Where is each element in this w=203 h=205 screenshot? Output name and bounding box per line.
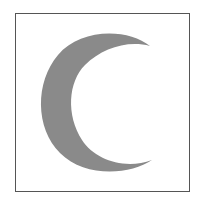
crescent-shape [41, 33, 152, 171]
crescent-moon-icon [0, 0, 203, 205]
